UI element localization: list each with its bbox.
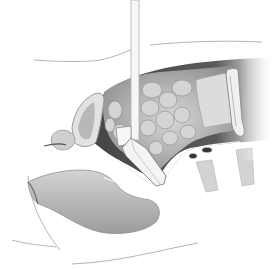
anatomical-illustration (0, 0, 280, 270)
retractor-shaft (131, 0, 139, 140)
fade-overlay (240, 50, 280, 160)
prostate (44, 130, 75, 150)
illustration-svg (0, 0, 280, 270)
rectum (28, 170, 159, 234)
